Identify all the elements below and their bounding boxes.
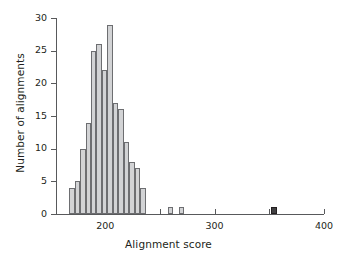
y-tick-label: 30	[22, 12, 47, 23]
histogram-bar	[179, 207, 184, 214]
histogram-bar	[168, 207, 173, 214]
y-axis-line	[56, 18, 57, 214]
histogram-figure: Number of alignments Alignment score 051…	[0, 0, 337, 261]
x-tick-label: 200	[85, 220, 125, 231]
histogram-bar	[271, 207, 276, 214]
y-tick	[51, 181, 56, 182]
x-axis-line	[56, 214, 324, 215]
y-tick-label: 5	[22, 175, 47, 186]
x-tick-label: 400	[304, 220, 337, 231]
y-tick	[51, 116, 56, 117]
x-minor-tick	[269, 209, 270, 214]
plot-area: 051015202530 200300400	[56, 18, 324, 214]
x-major-tick	[215, 209, 216, 214]
histogram-bar	[140, 188, 145, 214]
y-tick	[51, 51, 56, 52]
y-tick	[51, 18, 56, 19]
x-axis-label: Alignment score	[0, 238, 337, 250]
y-tick-label: 20	[22, 77, 47, 88]
x-minor-tick	[160, 209, 161, 214]
y-tick-label: 0	[22, 208, 47, 219]
y-tick	[51, 83, 56, 84]
y-tick	[51, 214, 56, 215]
y-tick-label: 25	[22, 44, 47, 55]
y-tick-label: 15	[22, 110, 47, 121]
x-tick-label: 300	[195, 220, 235, 231]
x-major-tick	[324, 209, 325, 214]
y-tick	[51, 149, 56, 150]
y-tick-label: 10	[22, 142, 47, 153]
